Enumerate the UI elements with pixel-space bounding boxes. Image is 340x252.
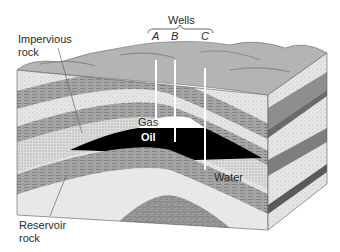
oil-label: Oil bbox=[141, 131, 156, 143]
reservoir-rock-label-line2: rock bbox=[19, 232, 40, 244]
wells-heading: Wells bbox=[168, 14, 195, 26]
oil-trap-diagram: Wells A B C Impervious rock Gas Oil Wate… bbox=[0, 0, 340, 252]
impervious-rock-label-line2: rock bbox=[18, 46, 39, 58]
impervious-rock-label-line1: Impervious bbox=[18, 33, 72, 45]
well-b-label: B bbox=[171, 30, 178, 42]
gas-label: Gas bbox=[138, 116, 158, 128]
well-c-label: C bbox=[201, 30, 209, 42]
water-label: Water bbox=[214, 171, 243, 183]
reservoir-rock-label-line1: Reservoir bbox=[19, 219, 66, 231]
well-a-label: A bbox=[152, 30, 159, 42]
